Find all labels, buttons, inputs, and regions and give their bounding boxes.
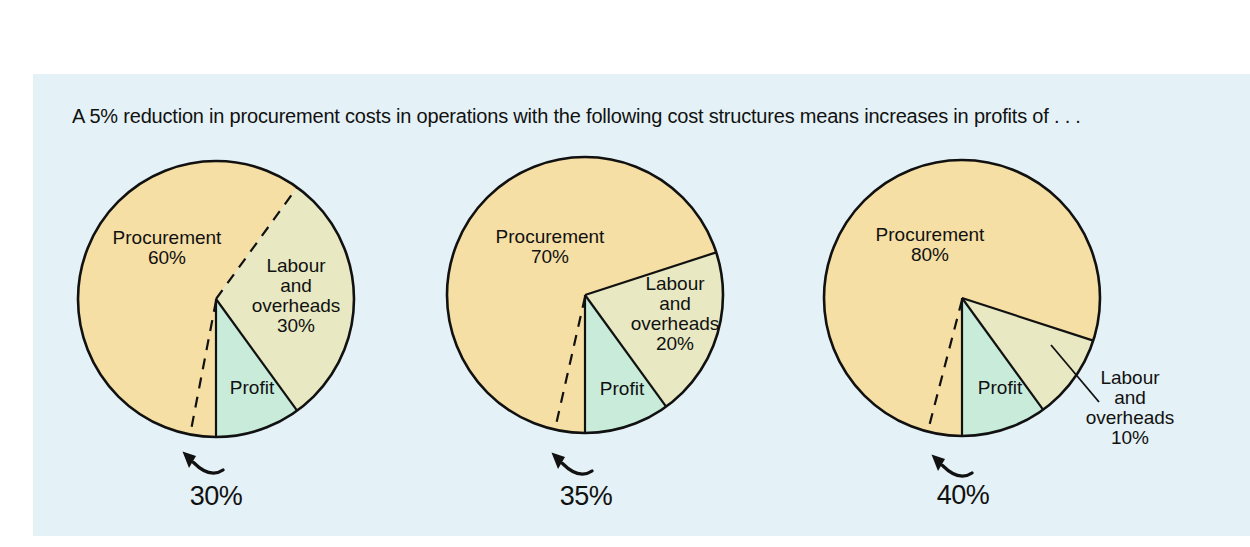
pie2-labour-label: Labour and overheads 20% [631,274,720,354]
pie2-profit-increase-label: 35% [560,481,613,512]
pie3-labour-label: Labour and overheads 10% [1086,368,1175,448]
pie3-curved-arrow-icon [927,453,975,481]
pie1-profit-label: Profit [230,378,274,398]
pie3-procurement-label: Procurement 80% [876,225,985,265]
pie1-curved-arrow-icon [178,450,226,478]
pie1-labour-label: Labour and overheads 30% [252,256,341,336]
pie1-procurement-label: Procurement 60% [113,228,222,268]
pie2-procurement-label: Procurement 70% [496,227,605,267]
figure-canvas: A 5% reduction in procurement costs in o… [0,0,1250,547]
figure-title: A 5% reduction in procurement costs in o… [72,105,1081,128]
pie1-profit-increase-label: 30% [190,481,243,512]
pie3-profit-label: Profit [978,378,1022,398]
pie2-profit-label: Profit [600,379,644,399]
pie3-profit-increase-label: 40% [937,480,990,511]
pie2-curved-arrow-icon [547,451,595,479]
pie-chart-3 [812,148,1112,448]
